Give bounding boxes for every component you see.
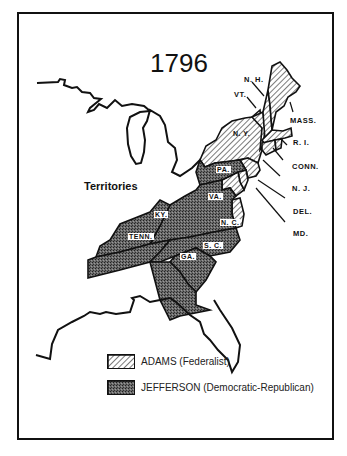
map-title: 1796 (150, 48, 208, 79)
legend-item-jefferson: JEFFERSON (Democratic-Republican) (107, 380, 314, 395)
label-maryland: MD. (293, 229, 308, 238)
label-south-carolina: S. C. (203, 242, 223, 249)
state-rhode-island (275, 139, 282, 150)
stipple-swatch-icon (107, 380, 135, 395)
legend-label-adams: ADAMS (Federalist) (141, 356, 230, 367)
label-new-jersey: N. J. (292, 184, 310, 193)
legend-item-adams: ADAMS (Federalist) (107, 354, 230, 369)
label-delaware: DEL. (293, 207, 312, 216)
legend-label-jefferson: JEFFERSON (Democratic-Republican) (141, 382, 314, 393)
label-virginia: VA. (208, 193, 223, 200)
great-lakes-coastline (37, 79, 200, 176)
territories-label: Territories (84, 180, 138, 192)
label-tennessee: TENN. (128, 233, 154, 240)
label-new-york: N. Y. (232, 130, 251, 137)
label-rhode-island: R. I. (293, 138, 309, 147)
label-vermont: VT. (234, 90, 246, 99)
label-new-hampshire: N. H. (244, 75, 264, 84)
label-connecticut: CONN. (292, 162, 319, 171)
label-georgia: GA. (180, 253, 196, 260)
label-pennsylvania: PA. (216, 166, 231, 173)
label-massachusetts: MASS. (290, 116, 316, 125)
label-kentucky: KY. (154, 211, 168, 218)
label-north-carolina: N. C. (220, 219, 240, 226)
state-connecticut (262, 140, 276, 155)
hatched-swatch-icon (107, 354, 135, 369)
